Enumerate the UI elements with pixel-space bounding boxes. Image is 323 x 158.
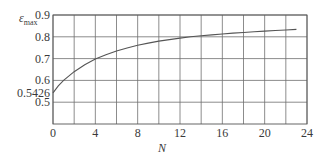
line-chart: 04812162024 0.50.60.70.80.90.5426 εmax N [0, 0, 323, 158]
x-tick-label: 12 [174, 126, 186, 140]
y-annotation-start-value: 0.5426 [17, 86, 50, 100]
x-tick-label: 24 [301, 126, 313, 140]
x-axis-label: N [157, 141, 167, 155]
y-tick-label: 0.7 [35, 52, 50, 66]
x-tick-label: 0 [50, 126, 56, 140]
x-tick-label: 8 [135, 126, 141, 140]
y-axis-label-subscript: max [24, 18, 38, 27]
x-tick-label: 20 [259, 126, 271, 140]
x-tick-label: 16 [216, 126, 228, 140]
x-tick-label: 4 [92, 126, 98, 140]
y-tick-label: 0.8 [35, 30, 50, 44]
data-line [53, 29, 296, 93]
x-tick-labels: 04812162024 [50, 126, 313, 140]
